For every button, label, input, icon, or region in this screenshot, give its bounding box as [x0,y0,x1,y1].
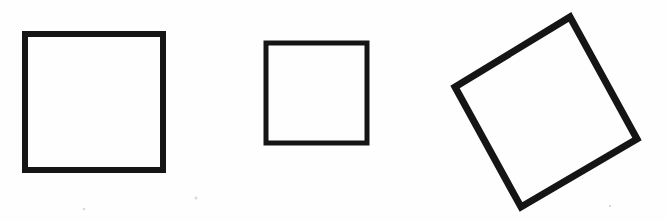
scan-speck [83,208,85,210]
shapes-svg: Large squareSmall squareTilted square [0,0,667,221]
figure-canvas: Three squares Black outlined squares on … [0,0,667,221]
scan-speck [609,205,611,207]
scan-speck [195,197,198,200]
